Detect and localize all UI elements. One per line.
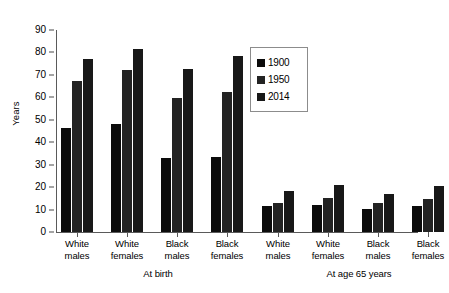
- bar: [172, 98, 182, 232]
- bar: [373, 203, 383, 232]
- bar: [312, 205, 322, 232]
- bar: [222, 92, 232, 232]
- y-tick-mark: [49, 30, 54, 31]
- y-tick-mark: [49, 142, 54, 143]
- y-tick-mark: [49, 164, 54, 165]
- bar: [211, 157, 221, 232]
- bar: [434, 186, 444, 232]
- y-tick-mark: [49, 52, 54, 53]
- bar-cluster: [61, 30, 105, 232]
- bar: [262, 206, 272, 232]
- legend-item: 2014: [257, 88, 302, 105]
- bar: [61, 128, 71, 232]
- legend-item: 1950: [257, 71, 302, 88]
- legend-swatch-icon: [257, 93, 265, 101]
- y-tick-label: 70: [35, 70, 46, 80]
- bar: [362, 209, 372, 232]
- y-tick-mark: [49, 209, 54, 210]
- bar: [284, 191, 294, 232]
- legend-label: 1900: [268, 58, 289, 68]
- x-axis-line: [56, 232, 418, 233]
- x-tick-mark: [378, 232, 379, 237]
- x-group-label: At age 65 years: [274, 268, 444, 279]
- bar: [72, 81, 82, 232]
- y-tick-label: 60: [35, 92, 46, 102]
- bar-cluster: [412, 30, 449, 232]
- x-tick-mark: [77, 232, 78, 237]
- bar: [83, 59, 93, 232]
- y-tick-label: 40: [35, 137, 46, 147]
- bar: [334, 185, 344, 232]
- x-tick-mark: [428, 232, 429, 237]
- bar-cluster: [312, 30, 356, 232]
- bar: [183, 69, 193, 232]
- bar-cluster: [211, 30, 255, 232]
- y-tick-label: 90: [35, 25, 46, 35]
- bar: [412, 206, 422, 232]
- bar-cluster: [111, 30, 155, 232]
- bar-cluster: [362, 30, 406, 232]
- y-tick-label: 80: [35, 47, 46, 57]
- y-tick-mark: [49, 119, 54, 120]
- bar: [133, 49, 143, 232]
- bar: [423, 199, 433, 232]
- legend-item: 1900: [257, 54, 302, 71]
- y-tick-label: 10: [35, 205, 46, 215]
- y-tick-mark: [49, 232, 54, 233]
- legend-swatch-icon: [257, 76, 265, 84]
- bar: [122, 70, 132, 232]
- x-tick-mark: [227, 232, 228, 237]
- bar: [161, 158, 171, 232]
- x-category-label: Blackfemales: [391, 238, 449, 261]
- x-category-label-line1: Black: [391, 238, 449, 250]
- y-tick-label: 50: [35, 115, 46, 125]
- y-tick-mark: [49, 187, 54, 188]
- legend-label: 2014: [268, 92, 289, 102]
- bar: [323, 198, 333, 232]
- y-tick-label: 30: [35, 160, 46, 170]
- x-tick-mark: [278, 232, 279, 237]
- bar: [233, 56, 243, 232]
- x-tick-mark: [328, 232, 329, 237]
- bar: [111, 124, 121, 232]
- y-tick-mark: [49, 97, 54, 98]
- bar: [384, 194, 394, 232]
- x-group-label: At birth: [73, 268, 243, 279]
- bar-cluster: [161, 30, 205, 232]
- x-tick-mark: [127, 232, 128, 237]
- x-category-label-line2: females: [391, 250, 449, 262]
- y-tick-label: 20: [35, 182, 46, 192]
- legend-label: 1950: [268, 75, 289, 85]
- legend-swatch-icon: [257, 59, 265, 67]
- legend: 190019502014: [250, 47, 308, 112]
- y-tick-mark: [49, 74, 54, 75]
- y-tick-label: 0: [41, 227, 46, 237]
- plot-area: [57, 30, 418, 232]
- x-tick-mark: [177, 232, 178, 237]
- bar: [273, 203, 283, 232]
